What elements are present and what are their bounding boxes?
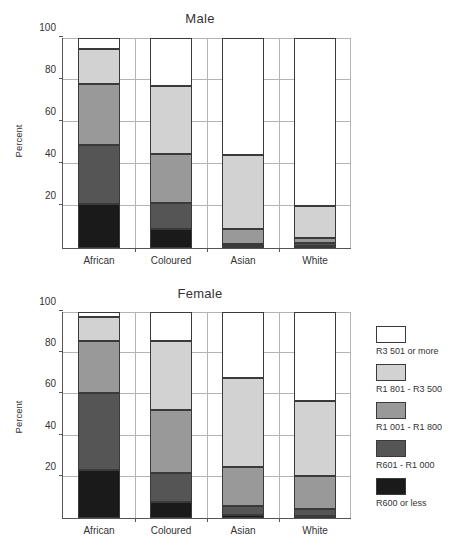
x-tick-mark-female-2: [279, 518, 280, 522]
y-tick-mark-60-female: [59, 392, 63, 393]
legend-item-0[interactable]: R3 501 or more: [376, 326, 466, 356]
legend-item-3[interactable]: R601 - R1 000: [376, 440, 466, 470]
legend: R3 501 or moreR1 801 - R3 500R1 001 - R1…: [376, 326, 466, 516]
bar-segment-female-african-1[interactable]: [78, 393, 120, 469]
bar-segment-male-african-4[interactable]: [78, 38, 120, 49]
bar-segment-female-coloured-2[interactable]: [150, 410, 192, 473]
plot-right-frame-male: [350, 38, 351, 248]
x-tick-label-male-african: African: [83, 255, 114, 266]
y-tick-mark-80-male: [59, 78, 63, 79]
y-tick-label-80-male: 80: [45, 64, 63, 75]
y-tick-mark-100-female: [59, 310, 63, 311]
bar-female-african[interactable]: [78, 312, 120, 518]
bar-segment-male-african-0[interactable]: [78, 204, 120, 248]
bar-segment-male-coloured-1[interactable]: [150, 203, 192, 229]
bar-segment-female-white-4[interactable]: [294, 312, 336, 401]
y-tick-mark-60-male: [59, 120, 63, 121]
x-tick-label-male-coloured: Coloured: [151, 255, 192, 266]
bar-segment-female-coloured-0[interactable]: [150, 502, 192, 518]
bar-segment-male-coloured-0[interactable]: [150, 229, 192, 248]
bar-segment-female-african-0[interactable]: [78, 470, 120, 518]
y-tick-label-20-male: 20: [45, 190, 63, 201]
legend-swatch-3: [376, 440, 406, 457]
y-tick-mark-20-female: [59, 475, 63, 476]
bar-segment-female-asian-0[interactable]: [222, 515, 264, 518]
bar-segment-female-white-2[interactable]: [294, 476, 336, 509]
bar-segment-female-white-1[interactable]: [294, 509, 336, 516]
gridline-x-Asian-female: [279, 312, 280, 518]
x-tick-label-male-asian: Asian: [230, 255, 255, 266]
legend-item-2[interactable]: R1 001 - R1 800: [376, 402, 466, 432]
legend-swatch-0: [376, 326, 406, 343]
y-axis-label-female: Percent: [13, 401, 24, 434]
y-tick-label-100-male: 100: [39, 22, 63, 33]
bar-segment-male-white-0[interactable]: [294, 246, 336, 248]
legend-item-1[interactable]: R1 801 - R3 500: [376, 364, 466, 394]
bar-segment-male-coloured-3[interactable]: [150, 86, 192, 153]
bar-segment-female-asian-2[interactable]: [222, 467, 264, 506]
x-tick-mark-male-1: [207, 248, 208, 252]
bar-male-coloured[interactable]: [150, 38, 192, 248]
bar-female-white[interactable]: [294, 312, 336, 518]
bar-segment-female-coloured-3[interactable]: [150, 341, 192, 410]
chart-panel-male: Male Percent 20406080100AfricanColouredA…: [0, 6, 370, 276]
bar-male-asian[interactable]: [222, 38, 264, 248]
bar-segment-female-white-0[interactable]: [294, 516, 336, 518]
legend-label-1: R1 801 - R3 500: [376, 384, 466, 394]
y-tick-label-40-female: 40: [45, 419, 63, 430]
gridline-x-African-male: [135, 38, 136, 248]
y-tick-mark-80-female: [59, 351, 63, 352]
bar-segment-male-coloured-4[interactable]: [150, 38, 192, 86]
x-tick-label-female-african: African: [83, 525, 114, 536]
bar-segment-male-african-3[interactable]: [78, 49, 120, 85]
x-tick-label-female-white: White: [302, 525, 328, 536]
bar-segment-female-african-4[interactable]: [78, 312, 120, 317]
bar-segment-male-white-2[interactable]: [294, 238, 336, 243]
y-tick-mark-40-male: [59, 162, 63, 163]
y-tick-mark-40-female: [59, 434, 63, 435]
gridline-x-Asian-male: [279, 38, 280, 248]
plot-area-male: 20406080100AfricanColouredAsianWhite: [62, 38, 351, 249]
legend-swatch-4: [376, 478, 406, 495]
bar-segment-male-white-4[interactable]: [294, 38, 336, 206]
chart-panel-female: Female Percent 20406080100AfricanColoure…: [0, 284, 370, 550]
legend-item-4[interactable]: R600 or less: [376, 478, 466, 508]
bar-segment-male-asian-0[interactable]: [222, 246, 264, 248]
plot-area-female: 20406080100AfricanColouredAsianWhite: [62, 312, 351, 519]
legend-label-2: R1 001 - R1 800: [376, 422, 466, 432]
gridline-x-Coloured-male: [207, 38, 208, 248]
y-tick-label-80-female: 80: [45, 337, 63, 348]
bar-segment-female-coloured-4[interactable]: [150, 312, 192, 341]
bar-segment-male-african-1[interactable]: [78, 145, 120, 204]
bar-segment-female-african-2[interactable]: [78, 341, 120, 394]
y-tick-label-40-male: 40: [45, 148, 63, 159]
x-tick-mark-male-0: [135, 248, 136, 252]
bar-segment-male-african-2[interactable]: [78, 84, 120, 145]
bar-segment-male-asian-3[interactable]: [222, 155, 264, 230]
legend-swatch-2: [376, 402, 406, 419]
bar-segment-male-white-1[interactable]: [294, 243, 336, 246]
bar-female-coloured[interactable]: [150, 312, 192, 518]
x-tick-mark-female-1: [207, 518, 208, 522]
bar-segment-female-asian-3[interactable]: [222, 378, 264, 467]
bar-female-asian[interactable]: [222, 312, 264, 518]
bar-segment-male-white-3[interactable]: [294, 206, 336, 238]
y-tick-mark-20-male: [59, 204, 63, 205]
y-tick-mark-100-male: [59, 36, 63, 37]
gridline-x-Coloured-female: [207, 312, 208, 518]
bar-segment-female-asian-1[interactable]: [222, 506, 264, 515]
plot-right-frame-female: [350, 312, 351, 518]
bar-segment-female-african-3[interactable]: [78, 317, 120, 341]
bar-segment-male-asian-2[interactable]: [222, 229, 264, 244]
bar-segment-female-white-3[interactable]: [294, 401, 336, 476]
bar-male-african[interactable]: [78, 38, 120, 248]
x-tick-mark-female-0: [135, 518, 136, 522]
bar-segment-female-asian-4[interactable]: [222, 312, 264, 378]
bar-segment-male-coloured-2[interactable]: [150, 154, 192, 203]
bar-segment-female-coloured-1[interactable]: [150, 473, 192, 502]
legend-label-4: R600 or less: [376, 498, 466, 508]
bar-segment-male-asian-4[interactable]: [222, 38, 264, 155]
bar-segment-male-asian-1[interactable]: [222, 244, 264, 246]
x-tick-label-female-coloured: Coloured: [151, 525, 192, 536]
bar-male-white[interactable]: [294, 38, 336, 248]
